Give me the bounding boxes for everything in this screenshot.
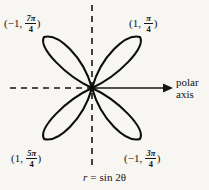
equation-operator: =: [90, 171, 96, 183]
fraction-denominator: 4: [28, 160, 34, 169]
radius-value: −1,: [128, 153, 142, 164]
radius-value: 1,: [133, 18, 141, 29]
equation-caption: r=sin 2θ: [0, 172, 209, 183]
polar-axis-arrowhead: [163, 84, 173, 93]
fraction-denominator: 4: [148, 160, 154, 169]
polar-axis-label: polar axis: [176, 77, 199, 100]
petal-lower-left: [43, 88, 92, 139]
fraction-numerator: π: [145, 14, 152, 23]
fraction-numerator: 5π: [26, 149, 37, 158]
theta-fraction: π 4: [144, 14, 153, 34]
point-label-bottom-left: (1, 5π 4 ): [11, 149, 41, 169]
equation-rhs: sin 2θ: [100, 171, 126, 183]
radius-value: −1,: [8, 18, 22, 29]
point-label-top-right: (1, π 4 ): [129, 14, 157, 34]
paren-close: ): [38, 153, 42, 164]
point-label-bottom-right: (−1, 3π 4 ): [124, 149, 160, 169]
theta-fraction: 7π 4: [25, 14, 36, 34]
polar-axis-label-line2: axis: [176, 89, 199, 101]
petal-upper-left: [43, 37, 92, 88]
petal-lower-right: [92, 88, 141, 139]
point-label-top-left: (−1, 7π 4 ): [4, 14, 40, 34]
theta-fraction: 5π 4: [26, 149, 37, 169]
fraction-denominator: 4: [146, 25, 152, 34]
polar-axis-label-line1: polar: [176, 77, 199, 89]
radius-value: 1,: [15, 153, 23, 164]
petal-upper-right: [92, 37, 141, 88]
polar-rose-figure: (−1, 7π 4 ) (1, π 4 ) (1, 5π 4 ): [0, 0, 209, 190]
fraction-numerator: 7π: [25, 14, 36, 23]
paren-close: ): [37, 18, 41, 29]
paren-close: ): [154, 18, 158, 29]
equation-lhs: r: [83, 171, 87, 183]
fraction-numerator: 3π: [145, 149, 156, 158]
fraction-denominator: 4: [28, 25, 34, 34]
paren-close: ): [157, 153, 161, 164]
theta-fraction: 3π 4: [145, 149, 156, 169]
